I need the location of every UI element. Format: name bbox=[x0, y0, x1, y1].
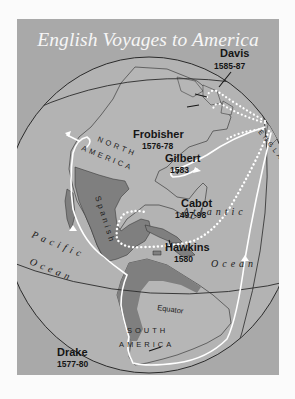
label-drake-name: Drake bbox=[57, 346, 88, 358]
label-south: SOUTH bbox=[127, 326, 168, 335]
map-panel: English Voyages to America bbox=[17, 19, 279, 375]
label-drake-years: 1577-80 bbox=[57, 359, 88, 369]
label-hawkins-years: 1580 bbox=[174, 254, 193, 264]
label-frobisher-name: Frobisher bbox=[133, 128, 184, 140]
label-atlantic: Atlantic bbox=[182, 206, 247, 217]
label-south-america: AMERICA bbox=[119, 340, 174, 349]
label-hawkins-name: Hawkins bbox=[165, 241, 210, 253]
label-davis-name: Davis bbox=[220, 47, 249, 59]
label-frobisher-years: 1576-78 bbox=[142, 141, 173, 151]
map-canvas: Davis 1585-87 Frobisher 1576-78 Gilbert … bbox=[17, 19, 279, 375]
label-atlantic-ocean: Ocean bbox=[211, 258, 257, 269]
label-gilbert-years: 1583 bbox=[170, 165, 189, 175]
label-gilbert-name: Gilbert bbox=[165, 152, 201, 164]
label-davis-years: 1585-87 bbox=[214, 61, 245, 71]
